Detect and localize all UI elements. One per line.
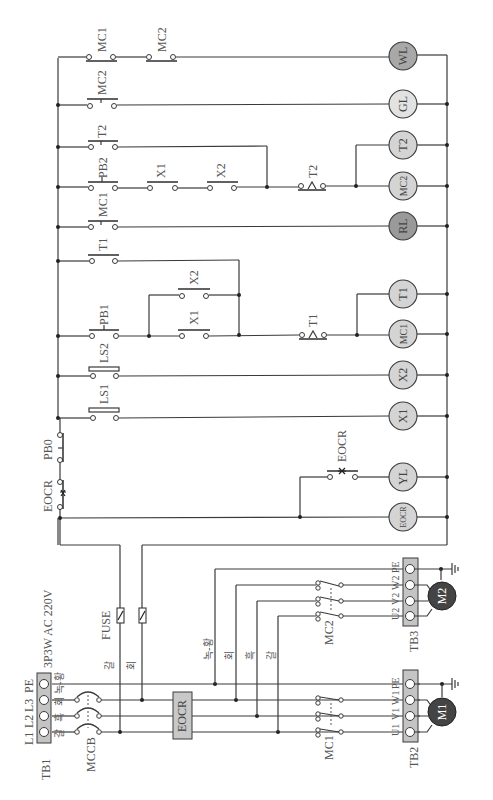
load-t1: T1	[389, 280, 417, 308]
svg-text:EOCR: EOCR	[399, 506, 408, 528]
load-rl: RL	[389, 212, 417, 240]
svg-text:T2: T2	[396, 138, 410, 151]
label-ls2: LS2	[97, 343, 111, 363]
label-wire-l2: 흑	[53, 713, 65, 722]
t2-timed-contact	[308, 182, 316, 189]
label-fuse-wire-2: 회	[126, 661, 137, 670]
t1-timed-contact	[309, 331, 317, 338]
label-mc1-a: MC1	[96, 192, 110, 217]
label-t2-a: T2	[95, 125, 109, 138]
label-mc2-main: MC2	[322, 620, 336, 645]
junction-dots	[56, 102, 449, 520]
svg-text:WL: WL	[396, 47, 410, 66]
label-x2-a: X2	[187, 270, 201, 285]
label-mc1-wl: MC1	[95, 27, 109, 52]
svg-text:YL: YL	[396, 469, 410, 485]
load-t2: T2	[389, 131, 417, 159]
label-pe2: PE	[390, 561, 401, 573]
load-eocr: EOCR	[389, 503, 417, 531]
label-mc2-wl: MC2	[155, 27, 169, 52]
tb1-terminal-block	[37, 673, 51, 743]
label-x1-b: X1	[154, 163, 168, 178]
fuse-feed	[117, 545, 146, 732]
label-u1: U1	[390, 724, 401, 736]
label-branch-l2: 흑	[244, 651, 256, 660]
svg-text:M2: M2	[435, 588, 449, 605]
motor-m1: M1	[428, 698, 456, 726]
ground-icon-m1	[452, 678, 458, 690]
label-pb2: PB2	[96, 157, 110, 178]
svg-text:T1: T1	[396, 287, 410, 300]
load-gl: GL	[389, 90, 417, 118]
svg-text:EOCR: EOCR	[175, 700, 189, 732]
label-tb1-pe: PE	[22, 679, 36, 693]
circuit-diagram: MC1 MC2 MC2 T2	[0, 0, 493, 800]
label-x1-a: X1	[187, 310, 201, 325]
load-mc1: MC1	[389, 320, 417, 348]
ground-icon-m2	[452, 563, 458, 575]
label-tb3: TB3	[407, 631, 421, 652]
label-pe1: PE	[390, 677, 401, 689]
label-x2-b: X2	[214, 163, 228, 178]
svg-text:MC1: MC1	[398, 324, 409, 345]
load-mc2: MC2	[389, 172, 417, 200]
label-pb0: PB0	[41, 439, 55, 460]
label-t1-timed: T1	[306, 314, 320, 327]
svg-text:RL: RL	[396, 218, 410, 233]
label-w1: W1	[390, 691, 401, 705]
eocr-no-x-mark-icon	[338, 468, 346, 474]
load-x2: X2	[389, 361, 417, 389]
label-w2: W2	[390, 576, 401, 590]
label-tb1-l3: L3	[22, 699, 36, 712]
label-branch-l1: 갈	[265, 651, 277, 660]
label-eocr-nc: EOCR	[41, 480, 55, 512]
svg-text:X1: X1	[396, 409, 410, 424]
svg-text:GL: GL	[396, 96, 410, 112]
ls1-limit-switch	[89, 408, 119, 412]
svg-text:M1: M1	[435, 704, 449, 721]
label-tb1: TB1	[39, 759, 53, 780]
load-x1: X1	[389, 402, 417, 430]
label-eocr-no: EOCR	[335, 430, 349, 462]
label-v1: V1	[390, 708, 401, 720]
ls2-limit-switch	[89, 367, 119, 371]
label-tb1-l2: L2	[22, 715, 36, 728]
label-u2: U2	[390, 608, 401, 620]
label-t1-a: T1	[96, 238, 110, 251]
label-wire-pe: 녹-황	[54, 672, 65, 694]
mccb-breaker	[75, 692, 102, 734]
load-wl: WL	[389, 42, 417, 70]
branch-m2	[215, 569, 413, 732]
load-yl: YL	[389, 463, 417, 491]
label-pb1: PB1	[97, 304, 111, 325]
label-fuse: FUSE	[99, 611, 113, 640]
label-ls1: LS1	[97, 384, 111, 404]
label-tb1-l1: L1	[22, 732, 36, 745]
label-fuse-wire-1: 갈	[103, 661, 115, 670]
label-branch-l3: 회	[224, 651, 235, 660]
label-tb2: TB2	[407, 747, 421, 768]
label-v2: V2	[390, 593, 401, 605]
label-wire-l1: 갈	[53, 729, 65, 738]
label-wire-l3: 회	[54, 697, 65, 706]
label-supply: 3P3W AC 220V	[41, 589, 55, 668]
svg-text:X2: X2	[396, 368, 410, 383]
svg-text:MC2: MC2	[398, 176, 409, 197]
label-mc1-main: MC1	[322, 735, 336, 760]
label-mc2-gl: MC2	[95, 70, 109, 95]
label-branch-pe: 녹-황	[203, 638, 214, 660]
label-t2-timed: T2	[306, 165, 320, 178]
label-mccb: MCCB	[84, 737, 98, 772]
motor-m2: M2	[428, 582, 456, 610]
eocr-relay: EOCR	[173, 692, 192, 739]
